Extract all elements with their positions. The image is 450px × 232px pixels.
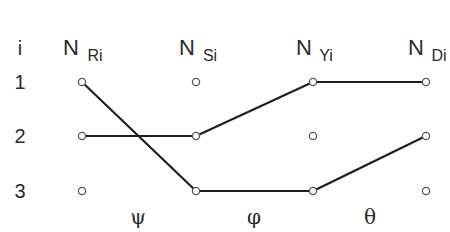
column-header-sub: Yi [319,47,333,64]
node-d1 [422,78,429,85]
node-y2 [309,132,316,139]
column-header-s: N Si [179,35,217,64]
node-s3 [192,187,199,194]
node-r3 [78,187,85,194]
edges-group [85,82,423,191]
index-header: i [18,37,22,59]
column-header-main: N [296,35,312,60]
mapping-symbol-phi: φ [247,205,261,229]
column-header-r: N Ri [63,35,103,64]
node-s2 [192,132,199,139]
row-label-1: 1 [14,71,25,93]
node-r1 [78,78,85,85]
column-header-d: N Di [408,35,447,64]
column-header-y: N Yi [296,35,333,64]
permutation-diagram: i N Ri N Si N Yi N Di 1 2 3 ψ φ θ [0,0,450,232]
column-header-sub: Ri [87,47,102,64]
mapping-symbol-psi: ψ [130,205,146,229]
node-d3 [422,187,429,194]
node-d2 [422,132,429,139]
row-label-2: 2 [14,125,25,147]
mapping-symbol-theta: θ [364,205,376,229]
row-label-3: 3 [14,180,25,202]
node-y1 [309,78,316,85]
diagram-svg: i N Ri N Si N Yi N Di 1 2 3 ψ φ θ [0,0,450,232]
column-header-sub: Si [203,47,217,64]
edge-y3-d2 [316,138,423,190]
column-header-main: N [63,35,79,60]
column-header-main: N [179,35,195,60]
column-header-main: N [408,35,424,60]
node-r2 [78,132,85,139]
node-s1 [192,78,199,85]
node-y3 [309,187,316,194]
column-header-sub: Di [431,47,446,64]
edge-s2-y1 [199,84,309,135]
